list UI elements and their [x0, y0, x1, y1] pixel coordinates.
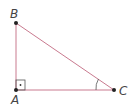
side-bc — [16, 23, 114, 90]
vertex-b — [14, 21, 18, 25]
triangle-diagram: B A C — [0, 0, 131, 106]
vertex-c — [112, 88, 116, 92]
right-angle-dot — [20, 84, 22, 86]
vertex-a — [14, 88, 18, 92]
label-c: C — [119, 84, 128, 98]
label-b: B — [10, 7, 18, 21]
label-a: A — [10, 93, 19, 106]
angle-c-arc — [96, 79, 99, 90]
